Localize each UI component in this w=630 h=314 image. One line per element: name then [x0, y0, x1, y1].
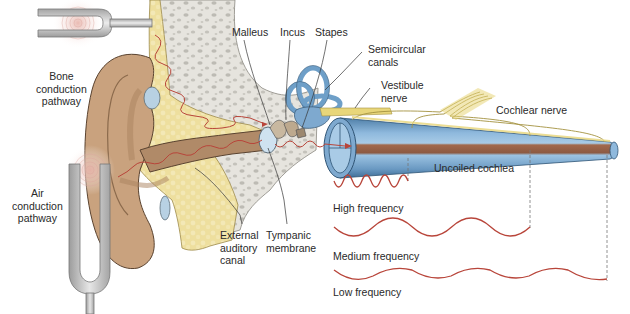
label-incus: Incus: [280, 26, 305, 39]
bone-conduction-tuning-fork: [38, 0, 152, 49]
label-cochlear-nerve: Cochlear nerve: [496, 104, 567, 117]
label-medium-frequency: Medium frequency: [333, 250, 419, 263]
label-vestibule-nerve: Vestibule nerve: [381, 79, 424, 104]
label-external-auditory-canal: External auditory canal: [220, 229, 259, 267]
diagram-illustration: [0, 0, 630, 314]
label-uncoiled-cochlea: Uncoiled cochlea: [434, 162, 514, 175]
ear-diagram: Bone conduction pathway Air conduction p…: [0, 0, 630, 314]
label-bone-conduction-pathway: Bone conduction pathway: [36, 70, 87, 108]
label-high-frequency: High frequency: [333, 202, 404, 215]
air-conduction-tuning-fork: [65, 145, 115, 314]
label-stapes: Stapes: [315, 26, 348, 39]
label-tympanic-membrane: Tympanic membrane: [266, 229, 316, 254]
label-malleus: Malleus: [232, 26, 268, 39]
frequency-waves: [334, 175, 607, 280]
label-semicircular-canals: Semicircular canals: [368, 43, 426, 68]
label-low-frequency: Low frequency: [333, 286, 401, 299]
label-air-conduction-pathway: Air conduction pathway: [12, 187, 63, 225]
